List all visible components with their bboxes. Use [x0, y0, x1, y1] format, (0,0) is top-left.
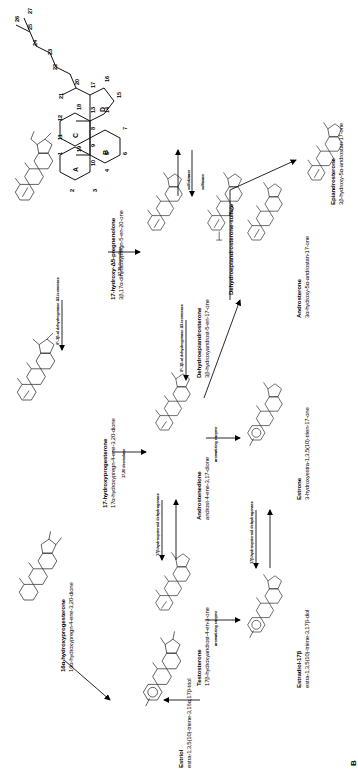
- structure-17-hydroxy-pregnenolone: [15, 131, 52, 200]
- steroid-biosynthesis-pathway-figure: A B C D 1 2 3 4 5 6 7 8 9 10 11 12 13 14…: [0, 0, 358, 773]
- enzyme-label-sulfokinase: sulfokinase: [187, 170, 191, 190]
- enzyme-label-desmolase-mid: 17,20 desmolase: [122, 449, 126, 478]
- compound-label-dehydroepiandrosterone-sulfate: Dehydroepiandrosterone-sulfate: [228, 204, 235, 295]
- structure-16a-hydroxyprogesterone: [19, 531, 61, 600]
- enzyme-label-desmolase-top: 17,20 desmolase: [118, 247, 122, 276]
- compound-label-androstenedione: Androstenedione: [196, 471, 203, 520]
- compound-label-epiandrosterone: Epiandrosterone: [330, 158, 337, 205]
- compound-label-testosterone: Testosterone: [196, 649, 203, 686]
- structure-androsterone: [248, 182, 283, 240]
- compound-iupac-17-hydroxyprogesterone: 17α-hydroxypregn-4-ene-3,20-dione: [110, 418, 117, 508]
- enzyme-label-17b-hsd-1: 17β-hydroxysteroid dehydrogenase: [156, 493, 160, 556]
- compound-iupac-estriol: estra-1,3,5(10)-triene-3,16α,17β-triol: [186, 679, 193, 768]
- enzyme-label-3b-ol-dehydrogenase-2: δ⁵-3β-ol dehydrogenase Δ3-isomerase: [180, 304, 184, 372]
- compound-iupac-16a-hydroxyprogesterone: 16α-hydroxypregn-4-ene-3,20-dione: [68, 582, 75, 672]
- structure-dehydroepiandrosterone: [148, 172, 183, 230]
- enzyme-label-3b-ol-dehydrogenase-1: δ⁵-3β-ol dehydrogenase Δ3-isomerase: [56, 277, 60, 345]
- structure-estrone: [248, 382, 283, 445]
- compound-iupac-estradiol-17b: estra-1,3,5(10)-triene-3,17β-diol: [304, 610, 311, 688]
- structure-estradiol-17b: [248, 574, 283, 637]
- enzyme-label-sulfatase: sulfatase: [201, 174, 205, 190]
- compound-label-17-hydroxy-d5-pregnenolone: 17-hydroxy-Δ5-pregnenolone: [110, 218, 117, 300]
- enzyme-label-17b-hsd-2: 17β-hydroxysteroid dehydrogenase: [250, 501, 254, 564]
- compound-label-16a-hydroxyprogesterone: 16α-hydroxyprogesterone: [60, 599, 67, 672]
- structure-dehydroepiandrosterone-sulfate: [208, 172, 243, 240]
- compound-iupac-epiandrosterone: 3β-hydroxy-5α-androstan-17-one: [338, 123, 345, 205]
- structure-17-hydroxyprogesterone: [17, 333, 54, 400]
- structure-estriol: [143, 631, 180, 706]
- structure-androstenedione: [156, 372, 191, 430]
- compound-label-estrone: Estrone: [296, 478, 303, 500]
- arrow-to-epiandrosterone-head: [230, 160, 296, 190]
- enzyme-label-aromatizing-enzyme-1: aromatizing enzyme: [214, 427, 218, 462]
- compound-label-estriol: Estriol: [178, 750, 185, 768]
- compound-label-17-hydroxyprogesterone: 17-hydroxyprogesterone: [102, 439, 109, 508]
- compound-iupac-testosterone: 17β-hydroxyandrost-4-en-3-one: [204, 607, 211, 686]
- compound-iupac-dehydroepiandrosterone: 3β-hydroxyandrost-5-en-17-one: [204, 299, 211, 378]
- enzyme-label-aromatizing-enzyme-2: aromatizing enzyme: [214, 611, 218, 646]
- compound-iupac-androstenedione: androst-4-ene-3,17-dione: [204, 457, 211, 520]
- compound-label-estradiol-17b: Estradiol-17β: [296, 651, 303, 688]
- compound-iupac-estrone: 3-hydroxyestra-1,3,5(10)-trien-17-one: [304, 407, 311, 500]
- compound-label-androsterone: Androsterone: [296, 279, 303, 318]
- structure-testosterone: [156, 552, 191, 610]
- compound-label-dehydroepiandrosterone: Dehydroepiandrosterone: [196, 308, 203, 378]
- panel-label-b: B: [350, 760, 358, 766]
- compound-iupac-androsterone: 3α-hydroxy-5α-androstan-17-one: [304, 236, 311, 318]
